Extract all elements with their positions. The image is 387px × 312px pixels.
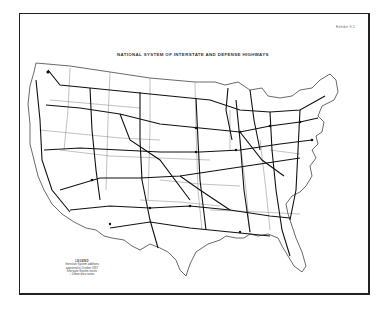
map-legend: LEGEND Interstate System additions appro… xyxy=(52,260,112,276)
legend-circle-label: Urban area routes xyxy=(72,272,95,276)
map-title: NATIONAL SYSTEM OF INTERSTATE AND DEFENS… xyxy=(117,52,269,57)
exhibit-label: Exhibit 9-1 xyxy=(336,25,373,29)
us-outline xyxy=(28,63,338,276)
